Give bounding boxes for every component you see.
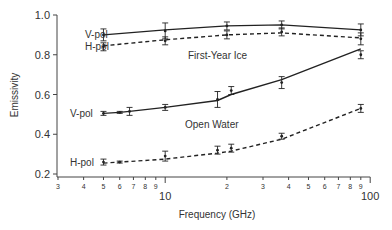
series-line [104, 108, 361, 163]
x-major-tick-label: 10 [159, 190, 171, 202]
first-year-ice-label: First-Year Ice [188, 50, 248, 61]
y-tick-label: 0.8 [35, 49, 50, 61]
data-point-marker [164, 155, 167, 158]
x-minor-tick-label: 2 [225, 183, 229, 190]
x-minor-tick-label: 8 [348, 183, 352, 190]
y-axis-label: Emissivity [9, 73, 20, 117]
x-minor-tick-label: 4 [287, 183, 291, 190]
emissivity-chart: 0.20.40.60.81.034567892345678910100 Emis… [0, 0, 392, 230]
x-minor-tick-label: 8 [143, 183, 147, 190]
y-tick-label: 0.6 [35, 89, 50, 101]
x-minor-tick-label: 3 [261, 183, 265, 190]
data-point-marker [128, 110, 131, 113]
ice-vpol-label: V-pol [85, 29, 108, 40]
data-point-marker [280, 30, 283, 33]
water-hpol-label: H-pol [70, 157, 94, 168]
data-point-marker [230, 89, 233, 92]
data-point-marker [164, 106, 167, 109]
data-point-marker [230, 147, 233, 150]
data-point-marker [359, 29, 362, 32]
x-minor-tick-label: 7 [131, 183, 135, 190]
data-point-errorbar [358, 33, 364, 45]
x-minor-tick-label: 3 [56, 183, 60, 190]
data-point-marker [280, 24, 283, 27]
x-minor-tick-label: 9 [154, 183, 158, 190]
data-point-marker [226, 25, 229, 28]
data-point-marker [216, 98, 219, 101]
data-point-marker [118, 161, 121, 164]
data-point-errorbar [100, 159, 106, 165]
chart-canvas: 0.20.40.60.81.034567892345678910100 Emis… [0, 0, 392, 230]
data-point-errorbar [358, 51, 364, 59]
series-layer [100, 21, 363, 165]
ice-hpol-label: H-pol [85, 41, 109, 52]
data-point-marker [216, 149, 219, 152]
data-point-marker [102, 112, 105, 115]
y-tick-label: 0.2 [35, 168, 50, 180]
x-axis-label: Frequency (GHz) [179, 209, 256, 220]
x-minor-tick-label: 9 [359, 183, 363, 190]
water-vpol-label: V-pol [70, 108, 93, 119]
open-water-label: Open Water [185, 119, 239, 130]
data-point-marker [359, 53, 362, 56]
series-line [104, 33, 361, 46]
data-point-marker [280, 81, 283, 84]
data-point-marker [118, 111, 121, 114]
x-major-tick-label: 100 [361, 190, 379, 202]
x-minor-tick-label: 5 [102, 183, 106, 190]
data-point-marker [280, 135, 283, 138]
y-tick-label: 0.4 [35, 128, 50, 140]
data-point-marker [359, 107, 362, 110]
x-minor-tick-label: 5 [307, 183, 311, 190]
data-point-marker [102, 161, 105, 164]
data-point-errorbar [162, 37, 168, 45]
data-point-marker [164, 30, 167, 33]
x-minor-tick-label: 7 [336, 183, 340, 190]
data-point-errorbar [358, 104, 364, 112]
x-minor-tick-label: 4 [82, 183, 86, 190]
series-line [104, 25, 361, 35]
data-point-marker [164, 39, 167, 42]
data-point-marker [359, 37, 362, 40]
data-point-marker [226, 33, 229, 36]
x-minor-tick-label: 6 [323, 183, 327, 190]
x-minor-tick-label: 6 [118, 183, 122, 190]
y-tick-label: 1.0 [35, 9, 50, 21]
